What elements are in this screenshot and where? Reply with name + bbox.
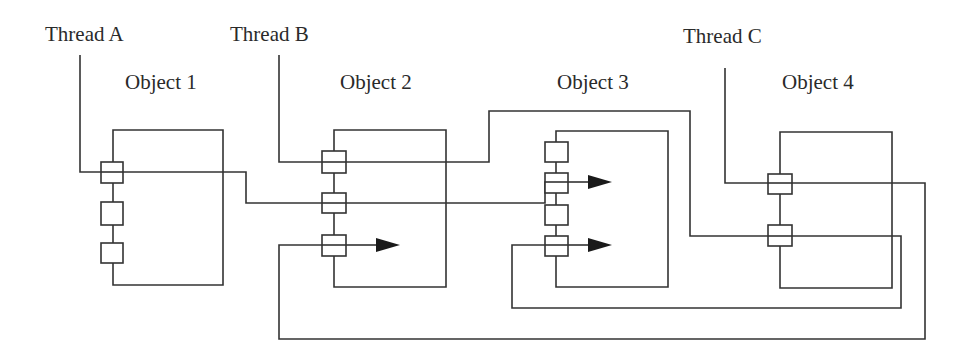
object-3-entry-3 [545, 205, 568, 225]
object-1-frame [113, 130, 223, 285]
object-3-entry-2 [545, 173, 568, 193]
object-3-arrow-icon-1 [588, 175, 612, 189]
object-4-label: Object 4 [782, 70, 854, 94]
object-3-arrow-icon-2 [588, 238, 612, 252]
thread-a-label: Thread A [45, 22, 125, 46]
object-2-label: Object 2 [340, 70, 412, 94]
thread-b-label: Thread B [230, 22, 309, 46]
object-3-label: Object 3 [557, 70, 629, 94]
object-1-label: Object 1 [125, 70, 197, 94]
thread-object-diagram: Thread A Thread B Thread C Object 1 Obje… [0, 0, 972, 357]
object-3-entry-1 [545, 142, 568, 162]
object-3-frame [556, 131, 668, 287]
object-1-entry-2 [101, 202, 123, 225]
thread-c-label: Thread C [683, 24, 762, 48]
object-3-entry-4 [545, 236, 568, 256]
object-4-frame [780, 132, 892, 288]
object-4-entry-1 [768, 174, 792, 194]
object-2-frame [334, 130, 446, 287]
object-2-arrow-icon [376, 238, 400, 252]
object-1-entry-3 [101, 243, 123, 263]
